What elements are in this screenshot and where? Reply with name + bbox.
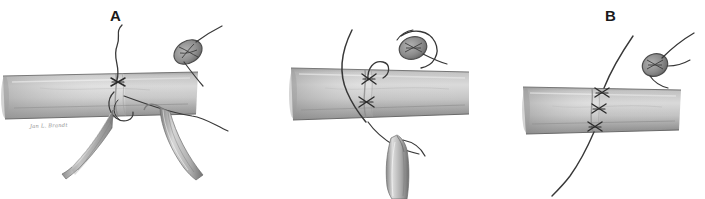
panel-b-artwork (235, 0, 470, 199)
surgical-illustration-figure: A Jan L. Brandt (0, 0, 705, 199)
knot-inset-b (396, 30, 447, 68)
panel-c: C Jan L. Brandt (470, 0, 705, 199)
knot-inset-c (639, 33, 694, 88)
panel-b: B Jan L. Brandt (235, 0, 470, 199)
panel-a-artwork (0, 0, 235, 199)
forceps-b (386, 135, 425, 199)
panel-label-a: A (110, 8, 121, 23)
forceps-left-a (62, 110, 114, 179)
vessel-body-b (289, 68, 469, 120)
panel-a: A Jan L. Brandt (0, 0, 235, 199)
panel-c-artwork (470, 0, 705, 199)
